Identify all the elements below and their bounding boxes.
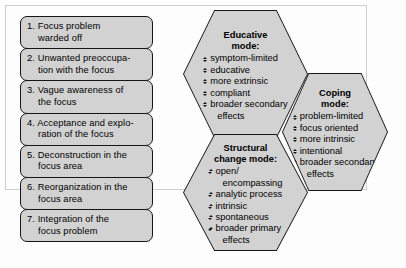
stage-box-text-line1: Acceptance and explo-	[37, 118, 134, 128]
list-item-label: broader secondary	[210, 99, 288, 109]
hexagon-title: Structural change mode:	[214, 143, 277, 165]
stage-box-text-line2: warded off	[27, 33, 147, 45]
stage-box-1[interactable]: 1. Focus problem warded off	[20, 16, 153, 49]
diamond-bullet-icon	[203, 91, 207, 93]
stage-box-number: 1.	[27, 21, 35, 31]
stage-box-text-line2: ration of the focus	[27, 129, 147, 141]
list-item-label: symptom-limited	[210, 53, 278, 63]
list-item: open/encompassing	[209, 166, 283, 189]
stage-box-number: 5.	[27, 150, 35, 160]
diamond-bullet-icon	[293, 115, 297, 117]
stage-box-3[interactable]: 3. Vague awareness of the focus	[20, 80, 153, 113]
diamond-bullet-icon	[209, 227, 213, 229]
stage-box-list: 1. Focus problem warded off 2. Unwanted …	[20, 16, 153, 241]
list-item: symptom-limited	[203, 53, 288, 64]
list-item: broader primaryeffects	[209, 223, 283, 246]
diamond-bullet-icon	[293, 149, 297, 151]
stage-box-text-line1: Focus problem	[38, 21, 101, 31]
stage-box-4[interactable]: 4. Acceptance and explo- ration of the f…	[20, 113, 153, 146]
diamond-bullet-icon	[203, 68, 207, 70]
list-item-continuation: effects	[300, 169, 378, 180]
stage-box-text-line2: focus area	[27, 194, 147, 206]
stage-box-7[interactable]: 7. Integration of the focus problem	[20, 209, 153, 242]
stage-box-text-line1: Unwanted preoccupa-	[38, 53, 131, 63]
diamond-bullet-icon	[203, 79, 207, 81]
list-item-label: broader primary	[216, 223, 282, 233]
diamond-bullet-icon	[203, 102, 207, 104]
list-item-label: compliant	[210, 88, 250, 98]
list-item: educative	[203, 65, 288, 76]
list-item-label: analytic process	[216, 189, 283, 199]
list-item-label: spontaneous	[216, 212, 269, 222]
stage-box-text-line1: Reorganization in the	[38, 182, 128, 192]
hexagon-attribute-list: symptom-limited educative more extrinsic…	[203, 53, 288, 121]
diamond-bullet-icon	[209, 192, 213, 194]
stage-box-number: 4.	[27, 118, 35, 128]
diamond-bullet-icon	[209, 169, 213, 171]
hexagon-title: Educative mode:	[224, 30, 268, 52]
list-item-continuation: encompassing	[216, 178, 283, 189]
list-item-label: intrinsic	[216, 201, 248, 211]
list-item-label: open/	[216, 166, 239, 176]
list-item: analytic process	[209, 189, 283, 200]
hexagon-attribute-list: open/encompassing analytic process intri…	[209, 166, 283, 246]
diamond-bullet-icon	[209, 204, 213, 206]
stage-box-6[interactable]: 6. Reorganization in the focus area	[20, 177, 153, 210]
list-item: broader secondaryeffects	[203, 99, 288, 122]
stage-box-5[interactable]: 5. Deconstruction in the focus area	[20, 145, 153, 178]
diamond-bullet-icon	[203, 57, 207, 59]
list-item: broader secondaryeffects	[293, 157, 378, 180]
list-item-label: intentional	[300, 146, 342, 156]
stage-box-number: 7.	[27, 214, 35, 224]
stage-box-text-line2: tion with the focus	[27, 65, 147, 77]
stage-box-text-line2: focus problem	[27, 226, 147, 238]
stage-box-text-line2: focus area	[27, 161, 147, 173]
list-item: spontaneous	[209, 212, 283, 223]
diagram-canvas: 1. Focus problem warded off 2. Unwanted …	[0, 0, 406, 268]
list-item-continuation: effects	[210, 111, 288, 122]
list-item-label: focus oriented	[300, 123, 358, 133]
list-item: more extrinsic	[203, 76, 288, 87]
stage-box-number: 3.	[27, 85, 35, 95]
hexagon-attribute-list: problem-limited focus oriented more intr…	[293, 111, 378, 179]
list-item: focus oriented	[293, 123, 378, 134]
list-item: compliant	[203, 88, 288, 99]
stage-box-number: 2.	[27, 53, 35, 63]
stage-box-2[interactable]: 2. Unwanted preoccupa- tion with the foc…	[20, 48, 153, 81]
list-item-label: more extrinsic	[210, 76, 268, 86]
stage-box-number: 6.	[27, 182, 35, 192]
stage-box-text-line2: the focus	[27, 97, 147, 109]
list-item-label: broader secondary	[300, 157, 378, 167]
list-item: intrinsic	[209, 201, 283, 212]
diamond-bullet-icon	[209, 215, 213, 217]
diamond-bullet-icon	[293, 126, 297, 128]
stage-box-text-line1: Deconstruction in the	[38, 150, 127, 160]
list-item-label: educative	[210, 65, 250, 75]
diamond-bullet-icon	[293, 137, 297, 139]
stage-box-text-line1: Vague awareness of	[38, 85, 124, 95]
list-item: intentional	[293, 146, 378, 157]
hexagon-title: Coping mode:	[319, 88, 351, 110]
list-item-label: problem-limited	[300, 111, 364, 121]
stage-box-text-line1: Integration of the	[38, 214, 109, 224]
list-item-label: more intrinsic	[300, 134, 355, 144]
list-item: more intrinsic	[293, 134, 378, 145]
list-item: problem-limited	[293, 111, 378, 122]
list-item-continuation: effects	[216, 235, 283, 246]
